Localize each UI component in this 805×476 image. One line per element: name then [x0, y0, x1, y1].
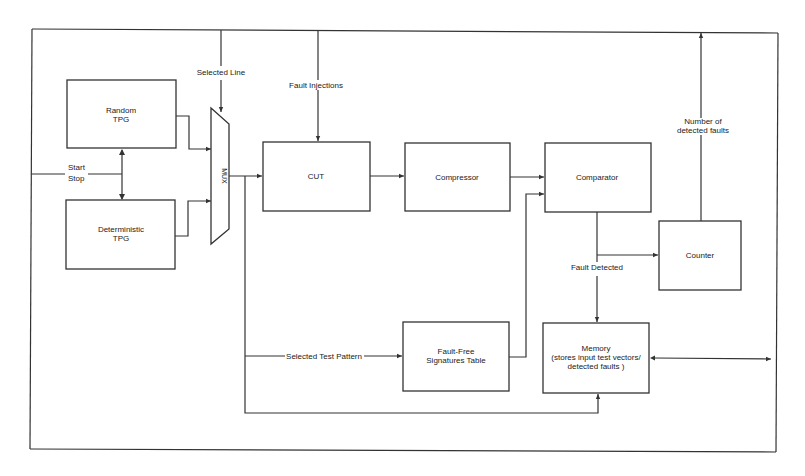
bist-block-diagram: Selected Line Fault Injections Start Sto…	[0, 0, 805, 476]
deterministic-tpg-block: Deterministic TPG	[66, 200, 175, 269]
signatures-table-label-2: Signatures Table	[426, 356, 486, 365]
cut-label: CUT	[308, 172, 325, 181]
start-label: Start	[68, 163, 86, 172]
memory-label-1: Memory	[582, 344, 611, 353]
stop-label: Stop	[68, 174, 85, 183]
random-tpg-block: Random TPG	[67, 80, 176, 148]
fault-injections-label: Fault Injections	[289, 81, 343, 90]
cut-block: CUT	[263, 142, 370, 211]
signatures-table-block: Fault-Free Signatures Table	[403, 322, 509, 391]
compressor-label: Compressor	[435, 173, 479, 182]
comparator-block: Comparator	[545, 143, 651, 212]
random-tpg-label-2: TPG	[113, 115, 129, 124]
detected-faults-label-2: detected faults	[677, 126, 729, 135]
mux-label: MUX	[221, 168, 228, 184]
memory-block: Memory (stores input test vectors/ detec…	[543, 323, 649, 393]
counter-label: Counter	[686, 251, 715, 260]
selected-line-label: Selected Line	[197, 68, 246, 77]
fault-detected-label: Fault Detected	[571, 263, 623, 272]
counter-block: Counter	[659, 221, 741, 290]
memory-label-3: detected faults )	[568, 362, 625, 371]
selected-test-pattern-label: Selected Test Pattern	[286, 352, 362, 361]
random-tpg-label-1: Random	[106, 106, 137, 115]
deterministic-tpg-label-1: Deterministic	[98, 225, 144, 234]
deterministic-tpg-label-2: TPG	[113, 234, 129, 243]
detected-faults-label-1: Number of	[684, 117, 722, 126]
compressor-block: Compressor	[405, 143, 510, 211]
mux-block: MUX	[211, 108, 229, 244]
memory-label-2: (stores input test vectors/	[551, 353, 641, 362]
comparator-label: Comparator	[576, 173, 619, 182]
signatures-table-label-1: Fault-Free	[438, 347, 475, 356]
